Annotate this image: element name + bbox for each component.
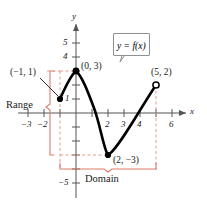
marker-right-endpoint	[153, 82, 159, 88]
point-label-leader	[40, 78, 58, 96]
y-tick-label-1: 1	[65, 94, 70, 103]
x-tick-label-2: 2	[105, 120, 110, 129]
x-axis-label: x	[190, 107, 194, 116]
point-label-left-endpoint: (−1, 1)	[10, 68, 36, 78]
x-tick-label-neg3: −3	[21, 120, 32, 129]
x-tick-label-6: 6	[169, 120, 174, 129]
axis-lines	[18, 24, 186, 198]
domain-label: Domain	[85, 174, 119, 185]
marker-local-min	[105, 152, 111, 158]
marker-left-endpoint	[57, 96, 63, 102]
x-tick-label-neg2: −2	[37, 120, 48, 129]
x-tick-label-4: 4	[137, 120, 142, 129]
y-tick-label-neg5: −5	[58, 178, 69, 187]
point-label-local-min: (2, −3)	[113, 156, 139, 166]
range-label: Range	[6, 100, 33, 111]
y-axis-label: y	[72, 12, 76, 21]
function-callout: y = f(x)	[113, 33, 150, 56]
domain-brace	[60, 163, 156, 172]
y-tick-label-5: 5	[63, 38, 68, 47]
point-label-local-max: (0, 3)	[81, 62, 102, 72]
function-graph-figure: x y −3 −2 2 3 4 6 5 4 1 −5 (−1, 1) (0, 3…	[0, 0, 207, 208]
point-label-right-endpoint: (5, 2)	[151, 68, 172, 78]
y-tick-label-4: 4	[63, 52, 68, 61]
x-tick-label-3: 3	[121, 120, 126, 129]
callout-text: y = f(x)	[117, 41, 146, 51]
marker-local-max	[73, 68, 80, 75]
